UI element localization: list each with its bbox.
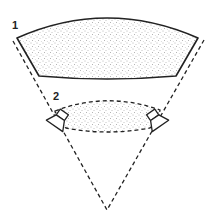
label-large-area: 1 — [12, 20, 18, 31]
large-area — [17, 18, 198, 79]
small-area — [55, 101, 160, 132]
label-small-area: 2 — [53, 91, 59, 102]
stereo-soundstage-diagram — [0, 0, 216, 219]
